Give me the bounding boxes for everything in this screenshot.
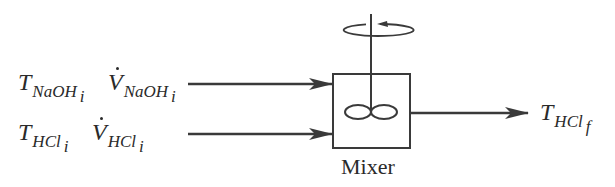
hcl-temperature-label: THCli <box>18 120 68 144</box>
subscript-index: i <box>171 87 176 106</box>
subscript-index: i <box>64 137 69 156</box>
temperature-symbol: T <box>540 99 553 125</box>
volumetric-flow-symbol: V <box>92 120 107 144</box>
flow-subscript: NaOH <box>124 82 168 101</box>
subscript-index: i <box>80 87 85 106</box>
temperature-subscript: HCl <box>554 112 582 131</box>
temperature-subscript: HCl <box>32 132 60 151</box>
subscript-index: f <box>586 117 591 136</box>
temperature-symbol: T <box>18 69 31 95</box>
temperature-subscript: NaOH <box>32 82 76 101</box>
temperature-symbol: T <box>18 119 31 145</box>
naoh-flow-label: VNaOHi <box>108 70 176 94</box>
volumetric-flow-symbol: V <box>108 70 123 94</box>
mixer-process-diagram: TNaOHi VNaOHi THCli VHCli Mixer THClf <box>0 0 615 187</box>
rotation-arrow-icon <box>344 21 414 36</box>
mixer-label: Mixer <box>341 156 395 178</box>
flow-subscript: HCl <box>108 132 136 151</box>
output-temperature-label: THClf <box>540 100 590 124</box>
hcl-flow-label: VHCli <box>92 120 144 144</box>
diagram-graphics <box>0 0 615 187</box>
naoh-temperature-label: TNaOHi <box>18 70 85 94</box>
subscript-index: i <box>139 137 144 156</box>
